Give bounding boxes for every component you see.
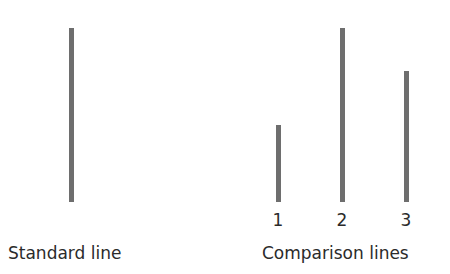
comparison-line-1 <box>276 125 281 202</box>
comparison-line-2-number: 2 <box>332 210 352 230</box>
comparison-line-3 <box>404 71 409 202</box>
standard-line-caption: Standard line <box>8 243 121 263</box>
comparison-line-1-number: 1 <box>268 210 288 230</box>
comparison-line-3-number: 3 <box>396 210 416 230</box>
standard-line <box>69 28 74 202</box>
comparison-lines-caption: Comparison lines <box>262 243 409 263</box>
comparison-line-2 <box>340 28 345 202</box>
